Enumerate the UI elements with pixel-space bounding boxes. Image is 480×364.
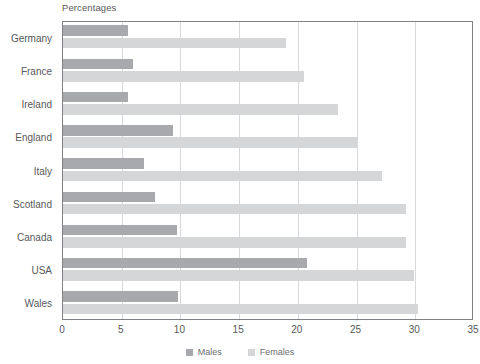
- bar-females-italy: [63, 171, 382, 182]
- y-axis-category-labels: GermanyFranceIrelandEnglandItalyScotland…: [0, 21, 57, 320]
- bar-males-italy: [63, 158, 144, 169]
- bar-males-usa: [63, 258, 307, 269]
- bar-chart: Percentages GermanyFranceIrelandEnglandI…: [0, 0, 480, 364]
- y-axis-label-england: England: [15, 132, 52, 143]
- bar-males-wales: [63, 291, 178, 302]
- legend-label-females: Females: [260, 347, 295, 357]
- bar-females-wales: [63, 304, 418, 315]
- x-axis-tick-25: 25: [350, 324, 361, 335]
- y-axis-label-usa: USA: [31, 265, 52, 276]
- x-axis-tick-20: 20: [291, 324, 302, 335]
- bar-males-canada: [63, 225, 177, 236]
- bar-females-france: [63, 71, 304, 82]
- bar-males-ireland: [63, 92, 128, 103]
- y-axis-label-italy: Italy: [34, 165, 52, 176]
- x-axis-tick-5: 5: [118, 324, 124, 335]
- bar-rows: [63, 22, 472, 319]
- x-axis-tick-labels: 05101520253035: [0, 324, 480, 340]
- y-axis-label-scotland: Scotland: [13, 198, 52, 209]
- bar-males-france: [63, 59, 133, 70]
- bar-row: [63, 221, 472, 254]
- chart-title: Percentages: [62, 2, 116, 13]
- bar-row: [63, 188, 472, 221]
- x-axis-tick-0: 0: [59, 324, 65, 335]
- y-axis-label-wales: Wales: [25, 298, 52, 309]
- bar-males-england: [63, 125, 173, 136]
- x-axis-tick-15: 15: [233, 324, 244, 335]
- legend-swatch-icon-males: [186, 349, 193, 356]
- bar-males-scotland: [63, 192, 155, 203]
- y-axis-label-germany: Germany: [11, 32, 52, 43]
- bar-row: [63, 288, 472, 319]
- y-axis-label-ireland: Ireland: [21, 99, 52, 110]
- legend-label-males: Males: [198, 347, 222, 357]
- bar-row: [63, 122, 472, 155]
- bar-females-scotland: [63, 204, 406, 215]
- legend-item-females[interactable]: Females: [248, 347, 295, 357]
- chart-legend: MalesFemales: [0, 344, 480, 360]
- x-axis-tick-35: 35: [467, 324, 478, 335]
- bar-row: [63, 155, 472, 188]
- legend-item-males[interactable]: Males: [186, 347, 222, 357]
- y-axis-label-france: France: [21, 65, 52, 76]
- y-axis-label-canada: Canada: [17, 231, 52, 242]
- bar-females-germany: [63, 38, 286, 49]
- x-axis-tick-30: 30: [409, 324, 420, 335]
- bar-row: [63, 255, 472, 288]
- bar-row: [63, 55, 472, 88]
- bar-females-ireland: [63, 104, 338, 115]
- bar-females-usa: [63, 270, 414, 281]
- bar-row: [63, 88, 472, 121]
- bar-males-germany: [63, 25, 128, 36]
- bar-row: [63, 22, 472, 55]
- x-axis-tick-10: 10: [174, 324, 185, 335]
- bar-females-canada: [63, 237, 406, 248]
- bar-females-england: [63, 137, 357, 148]
- legend-swatch-icon-females: [248, 349, 255, 356]
- plot-area: [62, 21, 473, 320]
